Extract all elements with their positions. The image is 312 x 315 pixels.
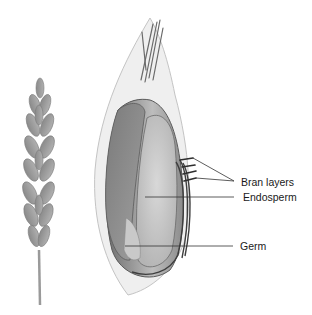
wheat-illustration bbox=[0, 0, 312, 315]
wheat-stem bbox=[39, 250, 40, 305]
leader-bran-bottom bbox=[196, 178, 234, 181]
label-germ: Germ bbox=[240, 241, 266, 252]
label-endosperm: Endosperm bbox=[243, 192, 297, 203]
leader-bran-top bbox=[193, 158, 234, 181]
wheat-kernel bbox=[95, 18, 196, 295]
wheat-ear bbox=[19, 78, 57, 305]
label-bran-layers: Bran layers bbox=[241, 177, 294, 188]
